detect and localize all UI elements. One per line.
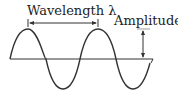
wave-diagram	[0, 0, 178, 100]
